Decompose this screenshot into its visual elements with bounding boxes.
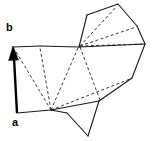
dashed-edge-hub-b-to-top: [80, 6, 117, 46]
solid-edge-p-to-hub-b: [79, 15, 87, 47]
point-label-a: a: [12, 117, 18, 128]
solid-edge-group: [13, 4, 145, 136]
solid-edge-v-to-u: [88, 101, 99, 136]
point-label-b: b: [6, 22, 13, 33]
solid-edge-r-to-q: [118, 4, 137, 26]
vector-shaft: [14, 58, 17, 113]
solid-edge-a-to-hub-a: [17, 110, 51, 113]
solid-edge-hub-b-to-s: [79, 44, 145, 47]
solid-edge-t-to-s: [132, 44, 145, 78]
dashed-edge-group: [15, 6, 144, 110]
solid-edge-hub-a-to-u: [51, 101, 99, 110]
polygon-unfolding-diagram: [0, 0, 160, 141]
dashed-edge-hub-a-to-b: [15, 50, 51, 110]
solid-edge-s-to-r: [137, 26, 145, 44]
dashed-edge-hub-a-to-hub-b: [51, 48, 78, 110]
solid-edge-w-to-v: [67, 113, 88, 136]
solid-edge-c-to-hub-b: [40, 46, 79, 47]
solid-edge-b-to-c: [13, 46, 40, 47]
vector-ab: [9, 46, 19, 113]
solid-edge-hub-a-to-w: [51, 110, 67, 113]
figure-root: b a: [0, 0, 160, 141]
